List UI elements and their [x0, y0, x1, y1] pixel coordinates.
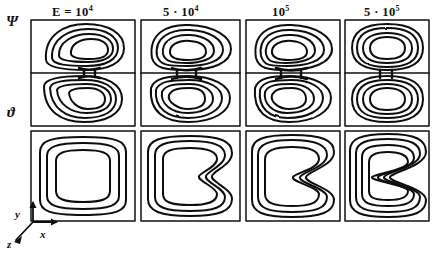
psi-panel-3-upper-contours — [255, 25, 332, 70]
theta-panel-3-contours — [252, 135, 334, 217]
theta-panel-4-contours — [350, 134, 426, 217]
contour-figure — [0, 0, 434, 260]
theta-panel-1-contours — [40, 137, 126, 215]
psi-panel-2-lower-contours — [151, 76, 230, 122]
theta-row-panels — [31, 131, 429, 221]
psi-panel-1-upper-contours — [46, 24, 124, 70]
psi-panel-4-lower-contours — [352, 76, 423, 122]
psi-panel-1-lower-contours — [44, 76, 122, 122]
theta-panel-2-contours — [148, 136, 232, 216]
psi-panel-2-upper-contours — [151, 25, 231, 70]
coordinate-triad — [14, 201, 58, 244]
psi-panel-4-upper-contours — [352, 24, 423, 70]
axis-z-arrow — [16, 222, 33, 240]
psi-panel-3-lower-contours — [255, 76, 331, 122]
psi-row-panels — [31, 20, 429, 126]
